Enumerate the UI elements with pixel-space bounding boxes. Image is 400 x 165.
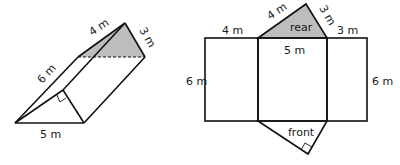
label-left-rect-top: 4 m [222,24,243,37]
label-rear-face: rear [290,21,313,34]
label-left-height: 6 m [186,75,207,88]
right-rectangle [327,38,367,121]
front-left-edge [15,90,63,123]
label-front-face: front [288,126,315,139]
right-angle-marker [57,95,66,102]
label-right-height: 6 m [372,75,393,88]
label-side-edge: 3 m [136,25,158,50]
label-middle-rect-top: 5 m [284,44,305,57]
label-right-rect-top: 3 m [337,24,358,37]
right-long-edge [84,57,145,123]
label-rear-right-edge: 3 m [316,3,338,28]
left-rectangle [205,38,258,121]
diagram-canvas: 4 m 3 m 6 m 5 m 4 m 3 m rear 4 m 3 m 5 m… [0,0,400,165]
label-base-edge: 5 m [40,128,61,141]
triangular-prism [15,23,145,123]
label-length-edge: 6 m [35,62,59,86]
front-right-edge [63,90,84,123]
